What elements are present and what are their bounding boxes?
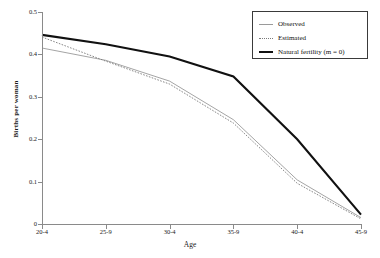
- legend-item-natural-fertility: Natural fertility (m = 0): [259, 45, 361, 58]
- y-tick: [38, 12, 43, 13]
- x-axis: [42, 224, 361, 225]
- thin-line-icon: [259, 20, 273, 28]
- x-tick-label: 35-9: [213, 228, 253, 236]
- y-axis: [42, 12, 43, 225]
- x-tick-label: 25-9: [86, 228, 126, 236]
- dotted-line-icon: [259, 34, 273, 42]
- y-tick: [38, 97, 43, 98]
- legend-label-estimated: Estimated: [278, 34, 306, 42]
- legend-item-estimated: Estimated: [259, 31, 361, 44]
- legend-label-observed: Observed: [278, 20, 305, 28]
- series-line-natural-fertility: [42, 35, 361, 215]
- chart-figure: 00.10.20.30.40.5 20-425-930-435-940-445-…: [0, 0, 380, 258]
- x-tick-label: 20-4: [22, 228, 62, 236]
- thick-line-icon: [259, 48, 273, 56]
- legend-item-observed: Observed: [259, 17, 361, 30]
- y-tick: [38, 182, 43, 183]
- x-axis-title: Age: [0, 240, 380, 249]
- series-line-observed: [42, 48, 361, 218]
- y-tick-label: 0.5: [11, 8, 37, 15]
- x-tick-label: 45-9: [341, 228, 380, 236]
- y-tick: [38, 139, 43, 140]
- y-axis-title: Births per woman: [12, 49, 20, 169]
- x-tick-label: 40-4: [277, 228, 317, 236]
- y-tick-label: 0.1: [11, 178, 37, 185]
- y-tick-label: 0: [11, 220, 37, 227]
- series-line-estimated: [42, 37, 361, 219]
- y-tick: [38, 54, 43, 55]
- legend-box: Observed Estimated Natural fertility (m …: [252, 11, 368, 59]
- x-tick-label: 30-4: [150, 228, 190, 236]
- legend-label-natural-fertility: Natural fertility (m = 0): [278, 48, 345, 56]
